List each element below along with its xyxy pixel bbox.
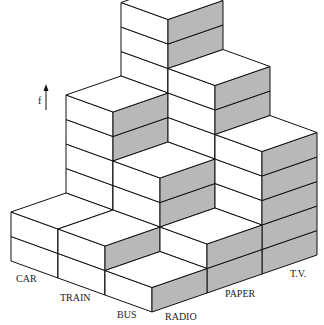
frequency-axis-arrow: f	[38, 84, 49, 110]
media-label-tv: T.V.	[290, 268, 306, 279]
arrow-up-icon	[44, 84, 49, 91]
transport-label-bus: BUS	[117, 309, 136, 320]
frequency-axis-label: f	[38, 95, 42, 106]
media-label-radio: RADIO	[165, 311, 197, 322]
stacked-3d-bar-chart: CARTRAINBUSRADIOPAPERT.V. f	[0, 0, 324, 325]
cube-stacks	[11, 0, 317, 312]
transport-label-train: TRAIN	[60, 292, 91, 303]
media-label-paper: PAPER	[225, 288, 256, 299]
transport-label-car: CAR	[16, 273, 37, 284]
